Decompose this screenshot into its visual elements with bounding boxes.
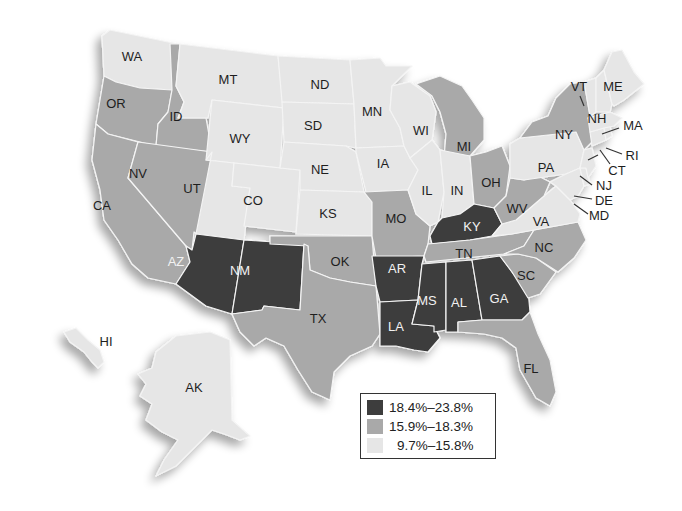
legend: 18.4%–23.8% 15.9%–18.3% 9.7%–15.8% [360, 393, 496, 459]
label-ME: ME [603, 79, 623, 94]
label-ID: ID [170, 109, 183, 124]
label-NY: NY [555, 127, 573, 142]
label-MD: MD [589, 208, 609, 223]
label-AR: AR [388, 261, 406, 276]
label-WA: WA [122, 49, 143, 64]
label-OR: OR [106, 96, 126, 111]
label-NH: NH [588, 111, 607, 126]
legend-label-low: 9.7%–15.8% [389, 438, 474, 453]
label-IL: IL [422, 183, 433, 198]
label-SC: SC [517, 268, 535, 283]
state-HI [64, 328, 104, 368]
label-UT: UT [183, 181, 200, 196]
label-AL: AL [451, 295, 467, 310]
label-WI: WI [413, 123, 429, 138]
label-ND: ND [311, 77, 330, 92]
label-MT: MT [219, 72, 238, 87]
state-ME [604, 50, 644, 106]
state-FL [458, 312, 556, 406]
label-NJ: NJ [596, 178, 612, 193]
legend-row-low: 9.7%–15.8% [367, 436, 489, 455]
label-CA: CA [93, 198, 111, 213]
label-AZ: AZ [168, 254, 185, 269]
legend-label-high: 18.4%–23.8% [389, 400, 473, 415]
label-IA: IA [377, 156, 390, 171]
label-WV: WV [507, 201, 528, 216]
label-VA: VA [533, 214, 550, 229]
label-CT: CT [608, 163, 625, 178]
label-TX: TX [310, 311, 327, 326]
label-NC: NC [535, 240, 554, 255]
label-MA: MA [623, 118, 643, 133]
label-KY: KY [463, 219, 481, 234]
legend-row-high: 18.4%–23.8% [367, 398, 489, 417]
label-OK: OK [331, 254, 350, 269]
label-FL: FL [523, 361, 538, 376]
legend-label-mid: 15.9%–18.3% [389, 419, 473, 434]
label-TN: TN [455, 246, 472, 261]
label-WY: WY [230, 131, 251, 146]
legend-swatch-high [367, 400, 383, 415]
label-IN: IN [451, 183, 464, 198]
label-LA: LA [388, 319, 404, 334]
label-SD: SD [304, 118, 322, 133]
label-NE: NE [311, 162, 329, 177]
legend-swatch-mid [367, 419, 383, 434]
label-AK: AK [185, 380, 203, 395]
label-MI: MI [457, 139, 471, 154]
label-PA: PA [538, 160, 555, 175]
legend-row-mid: 15.9%–18.3% [367, 417, 489, 436]
label-NV: NV [129, 166, 147, 181]
label-OH: OH [481, 175, 501, 190]
state-AK [138, 332, 250, 476]
label-CO: CO [243, 193, 263, 208]
label-MN: MN [362, 104, 382, 119]
label-DE: DE [595, 193, 613, 208]
label-RI: RI [626, 148, 639, 163]
label-MO: MO [386, 211, 407, 226]
label-MS: MS [417, 293, 437, 308]
label-VT: VT [571, 79, 588, 94]
label-NM: NM [230, 263, 250, 278]
label-KS: KS [319, 206, 337, 221]
label-GA: GA [490, 291, 509, 306]
us-choropleth-map: WA OR CA ID NV MT WY UT CO AZ NM ND SD N… [0, 0, 682, 511]
label-HI: HI [100, 334, 113, 349]
legend-swatch-low [367, 438, 383, 453]
